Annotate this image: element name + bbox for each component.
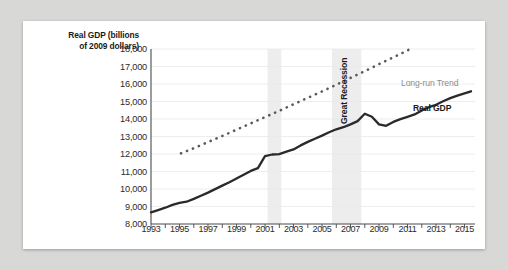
y-tick-label-11000: 11,000: [105, 167, 147, 177]
x-tick-label-2011: 2011: [398, 224, 416, 234]
y-tick-label-13000: 13,000: [105, 132, 147, 142]
x-axis-tick-labels: 1993 1995 1997 1999 2001 2003 2005 2007 …: [23, 224, 485, 242]
figure-card: Real GDP (billions of 2009 dollars) 18,0…: [23, 21, 485, 249]
real-gdp-label: Real GDP: [413, 103, 451, 113]
y-tick-label-15000: 15,000: [105, 97, 147, 107]
horizontal-gridlines: [151, 49, 475, 207]
y-tick-label-16000: 16,000: [105, 79, 147, 89]
y-tick-label-10000: 10,000: [105, 184, 147, 194]
long-run-trend-line: [181, 48, 413, 154]
y-tick-label-17000: 17,000: [105, 62, 147, 72]
x-tick-label-2013: 2013: [427, 224, 446, 234]
y-tick-label-9000: 9,000: [105, 202, 147, 212]
x-tick-label-2001: 2001: [256, 224, 275, 234]
x-tick-label-2007: 2007: [341, 224, 360, 234]
great-recession-label: Great Recession: [339, 58, 349, 124]
y-tick-label-18000: 18,000: [105, 44, 147, 54]
x-tick-label-2015: 2015: [455, 224, 474, 234]
x-tick-label-1995: 1995: [170, 224, 189, 234]
x-tick-label-2003: 2003: [284, 224, 303, 234]
x-tick-label-1993: 1993: [142, 224, 161, 234]
long-run-trend-label: Long-run Trend: [401, 78, 458, 88]
y-axis-tick-labels: 18,000 17,000 16,000 15,000 14,000 13,00…: [101, 21, 147, 249]
x-tick-label-1997: 1997: [199, 224, 218, 234]
x-tick-label-2005: 2005: [313, 224, 332, 234]
x-tick-label-2009: 2009: [370, 224, 389, 234]
x-tick-label-1999: 1999: [227, 224, 246, 234]
chart-container: Real GDP (billions of 2009 dollars) 18,0…: [23, 21, 485, 249]
y-tick-label-12000: 12,000: [105, 149, 147, 159]
chart-plot-svg: [23, 21, 485, 249]
y-tick-label-14000: 14,000: [105, 114, 147, 124]
